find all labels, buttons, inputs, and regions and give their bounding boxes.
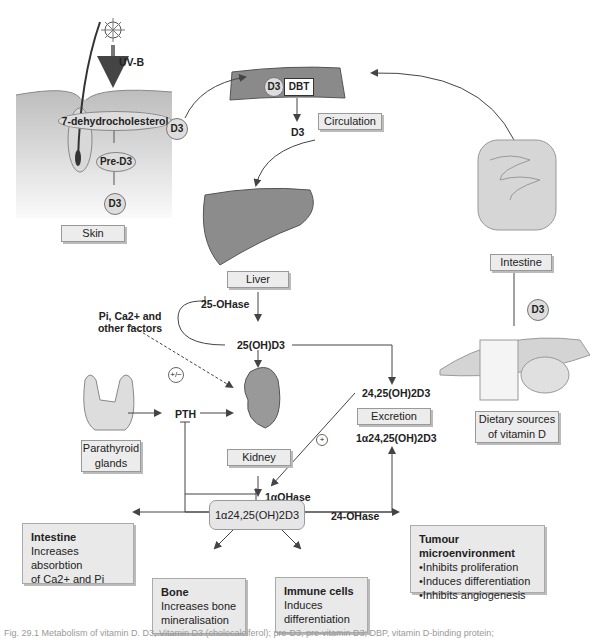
figure-caption: Fig. 29.1 Metabolism of vitamin D. D3, V…	[4, 628, 494, 638]
effect-bullet: Inhibits angiogenesis	[419, 588, 536, 602]
sun-icon	[101, 18, 125, 42]
effect-line: Increases absorbtion	[31, 544, 125, 572]
skin-label: Skin	[61, 225, 125, 242]
plus-minus-symbol: +/−	[168, 367, 184, 383]
liver-illustration	[203, 188, 313, 265]
kidney-label: Kidney	[227, 449, 291, 466]
regulating-factors-label: Pi, Ca2+ and other factors	[90, 310, 170, 334]
circulation-label: Circulation	[318, 113, 382, 130]
effect-tumour-box: Tumour microenvironment Inhibits prolife…	[410, 525, 545, 593]
pth-label: PTH	[175, 408, 196, 420]
uvb-label: UV-B	[119, 56, 144, 68]
effect-bullet: Inhibits proliferation	[419, 560, 536, 574]
25-oh-d3-label: 25(OH)D3	[237, 339, 285, 351]
d3-bubble-skin-out: D3	[166, 118, 188, 140]
d3-bubble-skin: D3	[104, 193, 126, 215]
24-ohase-label: 24-OHase	[331, 510, 379, 522]
parathyroid-label: Parathyroid glands	[81, 440, 141, 472]
effect-bone-box: Bone Increases bone mineralisation	[152, 578, 246, 634]
pre-d3-node: Pre-D3	[96, 152, 136, 172]
intestine-organ-label: Intestine	[490, 254, 552, 271]
fish-glass-mushroom-illustration	[440, 338, 590, 400]
effect-line: differentiation	[284, 612, 359, 626]
parathyroid-illustration	[84, 375, 134, 430]
d3-bubble-circulation: D3	[264, 77, 284, 97]
effect-intestine-box: Intestine Increases absorbtion of Ca2+ a…	[22, 523, 134, 584]
effect-immune-box: Immune cells Induces differentiation	[275, 577, 368, 633]
1a-24-25-oh2-d3-excretion-label: 1α24,25(OH)2D3	[356, 432, 437, 444]
dietary-sources-label: Dietary sources of vitamin D	[475, 411, 559, 443]
effect-line: of Ca2+ and Pi	[31, 572, 125, 586]
excretion-label: Excretion	[357, 408, 431, 425]
effect-line: mineralisation	[161, 613, 237, 627]
intestine-illustration	[478, 140, 556, 230]
calcitriol-central-node: 1α24,25(OH)2D3	[209, 500, 305, 530]
dbt-box: DBT	[284, 78, 314, 96]
effect-title: Intestine	[31, 530, 125, 544]
d3-circulation-out: D3	[291, 126, 304, 138]
25-ohase-label: 25-OHase	[201, 298, 249, 310]
d3-bubble-dietary: D3	[527, 299, 549, 321]
effect-line: Induces	[284, 598, 359, 612]
kidney-illustration	[244, 368, 279, 429]
24-25-oh2-d3-label: 24,25(OH)2D3	[362, 387, 430, 399]
effect-title: Tumour microenvironment	[419, 532, 536, 560]
dehydrocholesterol-node: 7-dehydrocholesterol	[58, 111, 172, 131]
effect-title: Immune cells	[284, 584, 359, 598]
effect-bullet: Induces differentiation	[419, 574, 536, 588]
effect-line: Increases bone	[161, 599, 237, 613]
plus-symbol: +	[316, 434, 328, 446]
effect-title: Bone	[161, 585, 237, 599]
liver-label: Liver	[227, 271, 289, 288]
